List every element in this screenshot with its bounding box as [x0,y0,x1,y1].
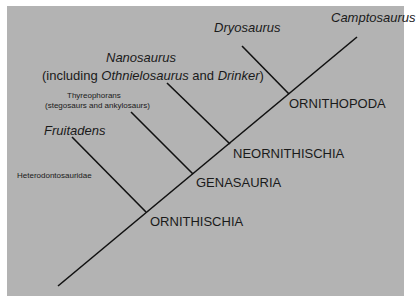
taxon-nanosaurus: Nanosaurus [106,51,176,64]
taxon-dryosaurus: Dryosaurus [214,21,280,34]
note-text: (including [42,68,101,83]
note-text: and [189,68,218,83]
clade-genasauria: GENASAURIA [196,176,281,189]
note-text: ) [260,68,264,83]
taxon-thyreophorans-note: (stegosaurs and ankylosaurs) [45,102,150,110]
taxon-nanosaurus-note: (including Othnielosaurus and Drinker) [42,69,264,82]
note-othnielosaurus: Othnielosaurus [101,68,188,83]
branch-nanosaurus [167,83,230,144]
note-drinker: Drinker [218,68,260,83]
taxon-thyreophorans: Thyreophorans [67,92,121,100]
clade-ornithopoda: ORNITHOPODA [289,97,386,110]
branch-thyreophorans [131,112,193,174]
taxon-fruitadens: Fruitadens [44,124,105,137]
taxon-heterodontosauridae: Heterodontosauridae [17,172,92,180]
taxon-camptosaurus: Camptosaurus [331,11,416,24]
clade-ornithischia: ORNITHISCHIA [150,215,243,228]
clade-neornithischia: NEORNITHISCHIA [233,147,344,160]
